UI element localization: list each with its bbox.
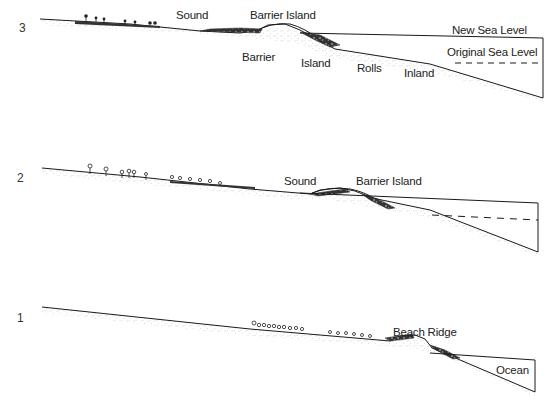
beach-ridge-label: Beach Ridge [393, 327, 457, 339]
caption-barrier: Barrier [242, 52, 275, 64]
stage-3-barrier-island-label: Barrier Island [250, 10, 316, 22]
diagram-canvas [0, 0, 555, 400]
stage-1-number: 1 [17, 312, 24, 324]
caption-island: Island [301, 58, 331, 70]
caption-inland: Inland [404, 68, 434, 80]
stage-2-sound-label: Sound [284, 176, 316, 188]
stage-3-number: 3 [19, 22, 26, 34]
stage-2-barrier-island-label: Barrier Island [356, 176, 422, 188]
ocean-label: Ocean [496, 365, 529, 377]
new-sea-level-label: New Sea Level [452, 25, 527, 37]
caption-rolls: Rolls [357, 63, 382, 75]
stage-2-number: 2 [17, 172, 24, 184]
stage-1-section [42, 307, 535, 396]
original-sea-level-label: Original Sea Level [447, 47, 537, 59]
stage-3-sound-label: Sound [176, 10, 208, 22]
